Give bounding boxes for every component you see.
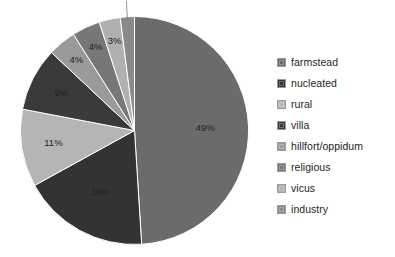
legend-item-label: vicus [291,178,315,199]
pie-plot-area: 49%18%11%9%4%4%3%2% [0,0,272,257]
legend-swatch-icon [277,142,286,151]
pie-chart-figure: 49%18%11%9%4%4%3%2% farmsteadnucleatedru… [0,0,395,257]
legend-item[interactable]: industry [277,199,393,220]
legend-item[interactable]: rural [277,94,393,115]
legend-item-label: religious [291,157,331,178]
pie-slice [135,16,249,244]
pie-slice-label: 4% [89,41,103,52]
legend-item[interactable]: villa [277,115,393,136]
legend-swatch-icon [277,205,286,214]
legend-swatch-icon [277,79,286,88]
legend-item-label: farmstead [291,52,338,73]
legend-item-label: hillfort/oppidum [291,136,363,157]
pie-slice-label: 18% [91,186,111,197]
pie-slice-label: 11% [44,137,63,148]
legend-item-label: industry [291,199,328,220]
legend-swatch-icon [277,121,286,130]
legend-item[interactable]: farmstead [277,52,393,73]
legend-item[interactable]: religious [277,157,393,178]
legend-item-label: villa [291,115,309,136]
legend-item-label: rural [291,94,312,115]
legend-swatch-icon [277,163,286,172]
legend-swatch-icon [277,100,286,109]
pie-slice-label: 3% [108,35,122,46]
pie-slice-label: 9% [55,87,69,98]
legend-swatch-icon [277,184,286,193]
pie-svg: 49%18%11%9%4%4%3%2% [0,0,272,257]
legend-item[interactable]: vicus [277,178,393,199]
chart-legend: farmsteadnucleatedruralvillahillfort/opp… [277,52,393,220]
pie-slice-label: 49% [196,122,216,133]
legend-swatch-icon [277,58,286,67]
legend-item[interactable]: hillfort/oppidum [277,136,393,157]
legend-item[interactable]: nucleated [277,73,393,94]
pie-slice-label: 4% [70,54,84,65]
legend-item-label: nucleated [291,73,337,94]
